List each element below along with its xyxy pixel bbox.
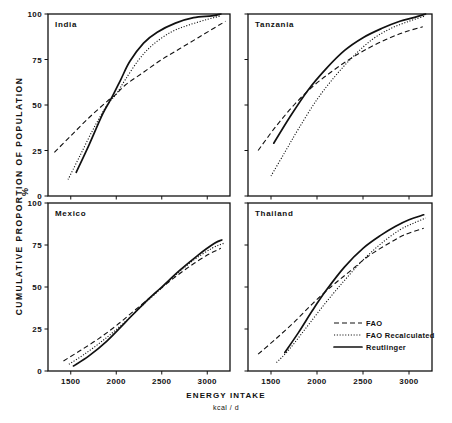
- y-tick-label: 25: [32, 325, 42, 334]
- x-tick-label: 1500: [261, 377, 281, 386]
- panel-india: India: [45, 14, 231, 200]
- panel-tanzania: Tanzania: [245, 14, 433, 200]
- tick-labels: 0255075100025507510015002000250030001500…: [27, 10, 418, 386]
- axis-titles: ENERGY INTAKEkcal / dCUMULATIVE PROPORTI…: [14, 77, 266, 411]
- panel-mexico: Mexico: [45, 203, 231, 375]
- figure-container: IndiaTanzaniaMexicoThailand0255075100025…: [0, 0, 452, 423]
- x-tick-label: 3000: [198, 377, 218, 386]
- series-fao-recalculated: [277, 218, 426, 362]
- y-tick-label: 50: [32, 283, 42, 292]
- y-axis-unit: %: [20, 188, 30, 196]
- y-tick-label: 25: [32, 147, 42, 156]
- legend-label-fao-recalculated: FAO Recalculated: [366, 331, 435, 340]
- panel-title-tanzania: Tanzania: [255, 20, 294, 29]
- x-tick-label: 2500: [152, 377, 172, 386]
- x-axis-title: ENERGY INTAKE: [186, 391, 265, 400]
- x-tick-label: 1500: [61, 377, 81, 386]
- y-tick-label: 50: [32, 101, 42, 110]
- series-fao-recalculated: [69, 243, 224, 364]
- y-tick-label: 100: [27, 199, 42, 208]
- legend-label-reutlinger: Reutlinger: [366, 343, 406, 352]
- x-tick-label: 2000: [307, 377, 327, 386]
- series-reutlinger: [73, 240, 221, 366]
- legend-label-fao: FAO: [366, 319, 382, 328]
- x-tick-label: 2500: [353, 377, 373, 386]
- panel-frame: [48, 203, 230, 371]
- y-tick-label: 0: [37, 367, 42, 376]
- x-axis-unit: kcal / d: [213, 404, 239, 411]
- panel-title-thailand: Thailand: [255, 209, 294, 218]
- series-reutlinger: [274, 14, 426, 143]
- legend: FAOFAO RecalculatedReutlinger: [334, 319, 435, 352]
- panel-title-mexico: Mexico: [55, 209, 86, 218]
- series-fao-recalculated: [68, 16, 221, 180]
- y-tick-label: 75: [32, 56, 42, 65]
- x-tick-label: 3000: [399, 377, 419, 386]
- y-tick-label: 100: [27, 10, 42, 19]
- x-tick-label: 2000: [107, 377, 127, 386]
- series-fao: [258, 27, 423, 151]
- panel-frame: [48, 14, 230, 196]
- multi-panel-line-chart: IndiaTanzaniaMexicoThailand0255075100025…: [0, 0, 452, 423]
- panel-title-india: India: [55, 20, 77, 29]
- series-reutlinger: [76, 14, 221, 172]
- series-fao-recalculated: [271, 16, 426, 176]
- series-fao: [54, 21, 225, 152]
- y-tick-label: 75: [32, 241, 42, 250]
